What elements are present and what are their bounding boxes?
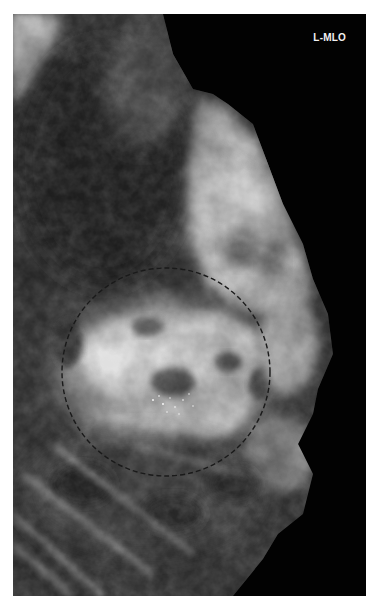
- mammogram-image: L-MLO: [13, 14, 366, 596]
- breast-tissue-render: [13, 14, 366, 596]
- view-label: L-MLO: [313, 32, 346, 43]
- page: L-MLO: [0, 0, 376, 604]
